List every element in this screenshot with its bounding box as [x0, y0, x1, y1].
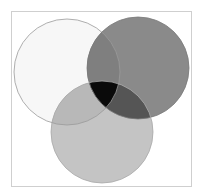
venn-diagram: [0, 0, 202, 196]
venn-svg: [0, 0, 202, 196]
